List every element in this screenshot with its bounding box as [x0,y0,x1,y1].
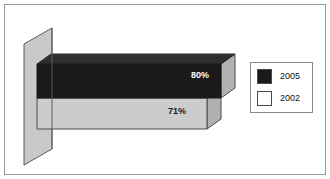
chart-frame: 80% 71% 2005 2002 [4,4,326,175]
bar-value-label-2002: 71% [168,106,186,116]
bar-2005-top-face [37,54,235,64]
legend-label-2002: 2002 [280,91,300,106]
legend-label-2005: 2005 [280,69,300,84]
bar-value-label-2005: 80% [191,70,209,80]
chart-screenshot: 80% 71% 2005 2002 [0,0,330,179]
chart-legend: 2005 2002 [250,62,313,113]
legend-swatch-icon-2002 [257,91,272,106]
legend-swatch-icon-2005 [257,69,272,84]
legend-item-2002: 2002 [257,91,300,106]
legend-item-2005: 2005 [257,69,300,84]
